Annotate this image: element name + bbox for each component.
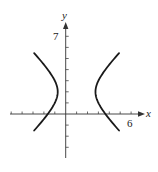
x-axis-arrow-icon	[138, 111, 145, 116]
hyperbola-left-branch	[34, 53, 58, 130]
y-axis-arrow-icon	[63, 22, 68, 29]
hyperbola-plot: y 7 6 x	[0, 0, 158, 172]
x-axis-label: x	[145, 107, 151, 119]
y-tick-label-7: 7	[53, 30, 59, 42]
x-axis	[10, 111, 145, 116]
y-axis	[63, 22, 69, 158]
x-tick-label-6: 6	[127, 117, 133, 129]
hyperbola-right-branch	[95, 53, 119, 130]
y-axis-label: y	[61, 9, 67, 21]
